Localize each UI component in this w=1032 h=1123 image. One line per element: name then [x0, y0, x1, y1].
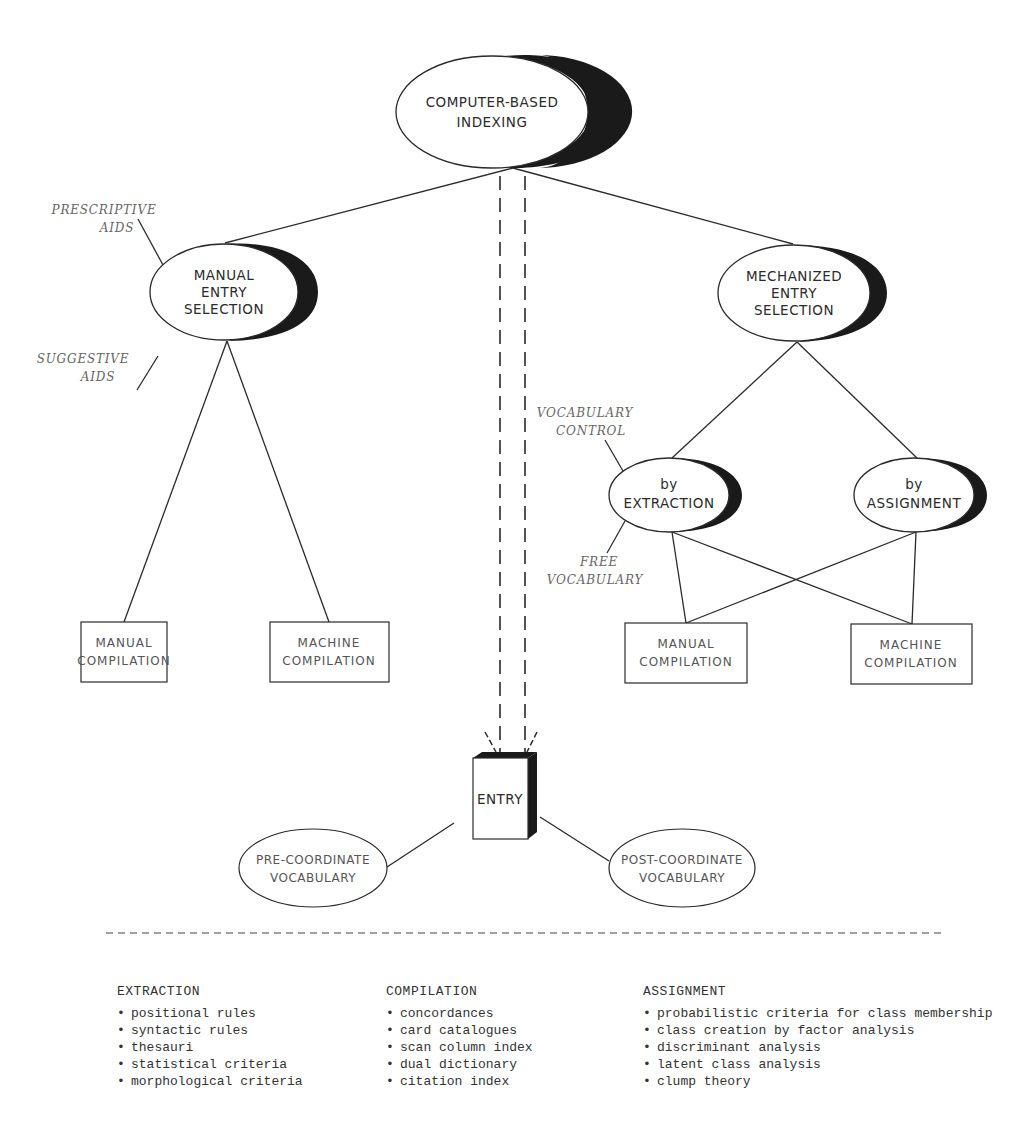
leader-prescriptive [138, 219, 163, 265]
annotation-suggestive-aids: SUGGESTIVE AIDS [37, 352, 130, 384]
legend-item-text: latent class analysis [657, 1057, 821, 1072]
legend-item-text: discriminant analysis [657, 1040, 821, 1055]
node-root-line-1: COMPUTER-BASED [426, 94, 559, 110]
bullet-icon: • [386, 1039, 400, 1056]
legend-list: •probabilistic criteria for class member… [643, 1005, 992, 1090]
node-manual-line-3: SELECTION [184, 301, 264, 317]
bullet-icon: • [643, 1022, 657, 1039]
node-post-line-1: POST-COORDINATE [621, 853, 743, 867]
edge-extraction-manualcomp [672, 532, 686, 623]
node-ellipse [396, 56, 588, 168]
legend-item-text: dual dictionary [400, 1057, 517, 1072]
arrowhead-left-a [485, 732, 496, 752]
legend-item: •concordances [386, 1005, 533, 1022]
legend-item-text: probabilistic criteria for class members… [657, 1006, 992, 1021]
bullet-icon: • [386, 1056, 400, 1073]
bullet-icon: • [643, 1056, 657, 1073]
legend-item: •clump theory [643, 1073, 992, 1090]
box-frame [851, 624, 972, 684]
annotation-line-1: SUGGESTIVE [37, 352, 130, 366]
legend-item: •class creation by factor analysis [643, 1022, 992, 1039]
legend-item: •discriminant analysis [643, 1039, 992, 1056]
legend-assignment: ASSIGNMENT •probabilistic criteria for c… [643, 984, 992, 1090]
bullet-icon: • [117, 1022, 131, 1039]
legend-item-text: thesauri [131, 1040, 193, 1055]
annotation-line-1: PRESCRIPTIVE [51, 203, 157, 217]
box-line-1: MACHINE [298, 636, 361, 650]
box-left-manual-compilation: MANUAL COMPILATION [77, 622, 170, 682]
edge-manual-left-machinecomp [227, 341, 329, 622]
legend-title: COMPILATION [386, 984, 533, 999]
legend-item: •dual dictionary [386, 1056, 533, 1073]
legend-item: •statistical criteria [117, 1056, 303, 1073]
node-post-coordinate-vocabulary: POST-COORDINATE VOCABULARY [609, 829, 755, 907]
edge-manual-left-manualcomp [124, 341, 227, 622]
node-pre-coordinate-vocabulary: PRE-COORDINATE VOCABULARY [239, 829, 387, 907]
legend-item: •latent class analysis [643, 1056, 992, 1073]
bullet-icon: • [643, 1073, 657, 1090]
node-post-line-2: VOCABULARY [639, 871, 725, 885]
legend-compilation: COMPILATION •concordances•card catalogue… [386, 984, 533, 1090]
annotation-line-1: FREE [579, 555, 618, 569]
box-line-2: COMPILATION [282, 654, 375, 668]
box-frame [270, 622, 389, 682]
cube-top [473, 752, 537, 758]
legend-item-text: card catalogues [400, 1023, 517, 1038]
node-entry-label: ENTRY [477, 791, 523, 807]
box-line-1: MANUAL [95, 636, 152, 650]
node-root: COMPUTER-BASED INDEXING [396, 55, 632, 168]
box-left-machine-compilation: MACHINE COMPILATION [270, 622, 389, 682]
annotation-line-1: VOCABULARY [537, 406, 634, 420]
annotation-line-2: AIDS [99, 221, 134, 235]
legend-item-text: morphological criteria [131, 1074, 303, 1089]
box-line-2: COMPILATION [864, 656, 957, 670]
box-line-2: COMPILATION [77, 654, 170, 668]
edge-root-mechanized [513, 168, 793, 244]
node-manual-line-1: MANUAL [194, 267, 255, 283]
node-mechanized-entry-selection: MECHANIZED ENTRY SELECTION [718, 245, 887, 342]
box-line-1: MANUAL [657, 637, 714, 651]
legend-item-text: concordances [400, 1006, 494, 1021]
legend-item-text: clump theory [657, 1074, 751, 1089]
edge-root-manual [225, 168, 513, 243]
box-line-1: MACHINE [880, 638, 943, 652]
bullet-icon: • [117, 1073, 131, 1090]
legend-item: •thesauri [117, 1039, 303, 1056]
node-by-extraction: by EXTRACTION [609, 458, 742, 532]
legend-item: •probabilistic criteria for class member… [643, 1005, 992, 1022]
legend-item-text: statistical criteria [131, 1057, 287, 1072]
edge-assignment-machinecomp [912, 532, 916, 624]
annotation-line-2: VOCABULARY [547, 573, 644, 587]
legend-list: •concordances•card catalogues•scan colum… [386, 1005, 533, 1090]
leader-free-vocabulary [607, 521, 625, 553]
legend-list: •positional rules•syntactic rules•thesau… [117, 1005, 303, 1090]
legend-title: ASSIGNMENT [643, 984, 992, 999]
node-root-line-2: INDEXING [457, 114, 528, 130]
leader-vocabulary-control [605, 440, 623, 471]
node-ellipse [609, 829, 755, 907]
node-extraction-line-1: by [660, 476, 678, 492]
edge-extraction-machinecomp [672, 532, 912, 624]
legend-item-text: positional rules [131, 1006, 256, 1021]
box-frame [81, 622, 167, 682]
legend-item: •syntactic rules [117, 1022, 303, 1039]
bullet-icon: • [117, 1039, 131, 1056]
legend-item-text: syntactic rules [131, 1023, 248, 1038]
indexing-diagram: COMPUTER-BASED INDEXING MANUAL ENTRY SEL… [0, 0, 1032, 1123]
annotation-line-2: AIDS [80, 370, 115, 384]
bullet-icon: • [386, 1073, 400, 1090]
legend-extraction: EXTRACTION •positional rules•syntactic r… [117, 984, 303, 1090]
legend-item-text: citation index [400, 1074, 509, 1089]
edge-entry-precoordinate [387, 823, 454, 867]
cube-side [528, 752, 537, 839]
annotation-vocabulary-control: VOCABULARY CONTROL [537, 406, 634, 438]
edge-assignment-manualcomp [686, 532, 916, 623]
edge-mechanized-extraction [672, 342, 797, 458]
bullet-icon: • [117, 1056, 131, 1073]
leader-suggestive [137, 356, 158, 390]
node-mechanized-line-3: SELECTION [754, 302, 834, 318]
legend-item: •scan column index [386, 1039, 533, 1056]
node-by-assignment: by ASSIGNMENT [854, 458, 987, 532]
bullet-icon: • [386, 1022, 400, 1039]
box-line-2: COMPILATION [639, 655, 732, 669]
